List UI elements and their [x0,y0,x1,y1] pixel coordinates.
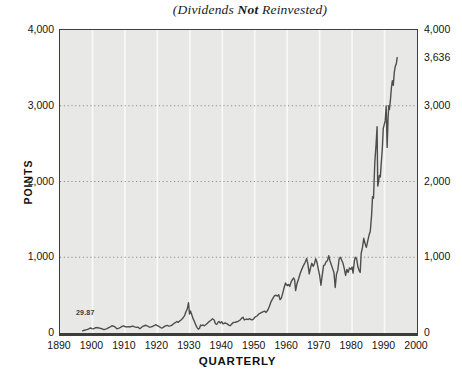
x-tick-label: 1910 [112,339,135,351]
x-tick-label: 1950 [242,339,265,351]
chart-title-prefix: (Dividends [173,2,238,17]
start-value-label: 29.87 [76,309,95,316]
y-tick-label: 4,000 [28,23,54,35]
x-axis-title: QUARTERLY [59,355,416,367]
y-tick-label: 1,000 [424,250,450,262]
x-tick-label: 1990 [372,339,395,351]
x-axis-ticks: 1890190019101920193019401950196019701980… [59,339,416,352]
y-tick-label: 3,000 [28,99,54,111]
x-tick-label: 1920 [145,339,168,351]
y-axis-ticks-left: 4,0003,0002,0001,0000 [0,29,54,332]
chart-title: (Dividends Not Reinvested) [38,2,462,18]
y-tick-label: 3,636 [424,51,450,63]
chart-title-suffix: Reinvested) [258,2,327,17]
y-tick-label: 1,000 [28,250,54,262]
chart-title-emphasis: Not [238,2,259,17]
x-tick-label: 2000 [404,339,427,351]
y-axis-ticks-right: 4,0003,6363,0002,0001,0000 [424,29,462,332]
x-tick-label: 1890 [47,339,70,351]
x-tick-label: 1960 [274,339,297,351]
chart-page: (Dividends Not Reinvested) POINTS 29.87 … [0,0,462,375]
x-tick-label: 1940 [210,339,233,351]
line-chart-svg [60,30,417,333]
y-tick-label: 4,000 [424,23,450,35]
y-tick-label: 0 [48,326,54,338]
y-tick-label: 3,000 [424,99,450,111]
x-tick-label: 1930 [177,339,200,351]
plot-area: 29.87 [59,29,418,336]
x-tick-label: 1980 [339,339,362,351]
x-tick-label: 1970 [307,339,330,351]
y-tick-label: 0 [424,326,430,338]
y-tick-label: 2,000 [28,175,54,187]
y-tick-label: 2,000 [424,175,450,187]
x-tick-label: 1900 [80,339,103,351]
